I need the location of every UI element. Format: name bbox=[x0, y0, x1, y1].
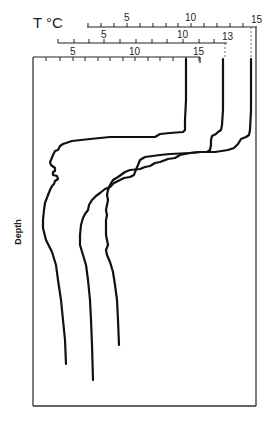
middle-scale-axis bbox=[58, 39, 227, 43]
profile-2-line bbox=[80, 59, 223, 380]
top-scale-axis bbox=[87, 23, 257, 27]
top-tick-15: 15 bbox=[251, 14, 263, 25]
bottom-scale-axis bbox=[33, 57, 200, 61]
middle-tick-5: 5 bbox=[101, 29, 107, 40]
temperature-depth-chart: T °C 5 10 15 bbox=[0, 0, 272, 422]
bottom-tick-5: 5 bbox=[70, 46, 76, 57]
y-axis-label: Depth bbox=[13, 219, 23, 245]
top-tick-10: 10 bbox=[185, 12, 197, 23]
middle-tick-13: 13 bbox=[222, 31, 234, 42]
middle-tick-10: 10 bbox=[177, 29, 189, 40]
top-tick-5: 5 bbox=[124, 12, 130, 23]
bottom-tick-10: 10 bbox=[129, 46, 141, 57]
chart-title: T °C bbox=[33, 14, 63, 31]
profile-3-line bbox=[106, 59, 251, 345]
bottom-tick-15: 15 bbox=[193, 46, 205, 57]
profile-1-line bbox=[43, 59, 186, 364]
